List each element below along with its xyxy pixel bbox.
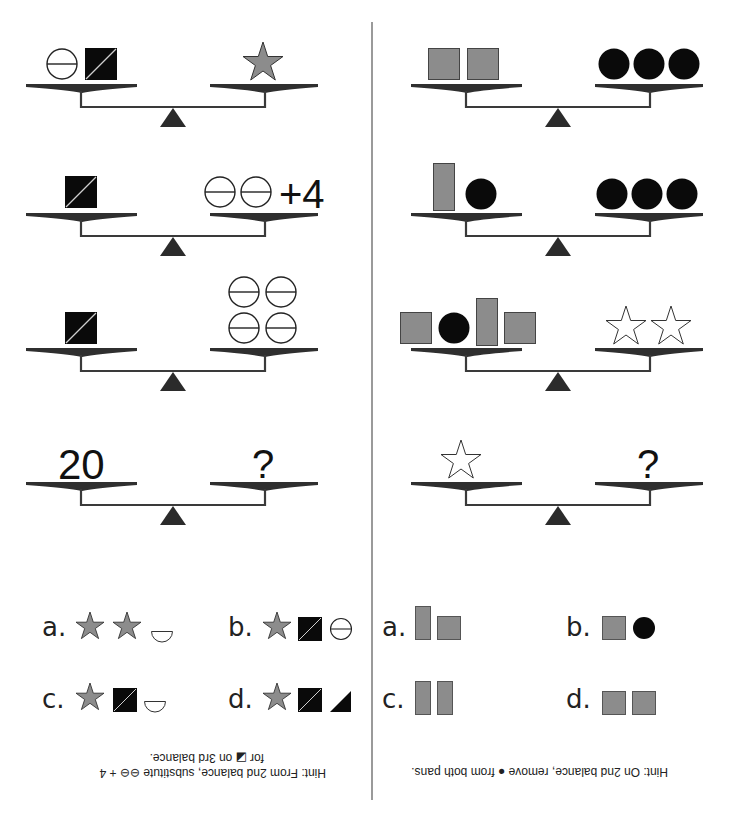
left-option-d[interactable]: d. xyxy=(228,686,253,712)
left-balance-3 xyxy=(26,277,318,391)
column-divider xyxy=(371,22,373,800)
rect-tall-gray-icon xyxy=(477,299,498,346)
left-hint-line-1: Hint: From 2nd balance, substitute ⊖⊖ + … xyxy=(78,765,326,780)
rect-tall-gray-icon xyxy=(434,164,455,211)
right-option-d[interactable]: d. xyxy=(566,686,591,712)
right-option-a-shapes xyxy=(416,607,461,640)
right-balance-4-question: ? xyxy=(637,444,659,484)
circle-line-icon xyxy=(229,313,259,343)
square-diagonal-icon xyxy=(65,312,97,344)
balance-puzzles-page: +4 20 ? ? a. b. c. d. a. b. c. d. Hint: … xyxy=(0,0,741,827)
left-option-a[interactable]: a. xyxy=(42,614,66,640)
right-option-b[interactable]: b. xyxy=(566,614,591,640)
left-balance-2 xyxy=(26,176,318,256)
circle-black-icon xyxy=(597,179,628,210)
right-option-c[interactable]: c. xyxy=(382,686,405,712)
circle-black-icon xyxy=(439,313,470,344)
right-balance-2 xyxy=(411,164,703,257)
right-balance-1 xyxy=(411,49,703,128)
left-balance-4 xyxy=(26,482,318,525)
right-option-d-shapes xyxy=(603,692,656,715)
circle-black-icon xyxy=(667,179,698,210)
circle-black-icon xyxy=(599,49,630,80)
left-balance-4-question: ? xyxy=(252,444,274,484)
circle-line-icon xyxy=(241,177,271,207)
circle-line-icon xyxy=(229,277,259,307)
left-option-d-shapes xyxy=(263,683,351,712)
right-balance-3 xyxy=(401,299,704,392)
circle-line-icon xyxy=(205,177,235,207)
circle-line-icon xyxy=(266,277,296,307)
square-gray-icon xyxy=(429,49,460,80)
left-balance-4-number: 20 xyxy=(58,444,105,486)
square-diagonal-icon xyxy=(85,48,117,80)
square-gray-icon xyxy=(468,49,499,80)
circle-black-icon xyxy=(669,49,700,80)
square-gray-icon xyxy=(401,313,432,344)
circle-black-icon xyxy=(632,179,663,210)
star-outline-icon xyxy=(606,306,646,344)
right-option-a[interactable]: a. xyxy=(382,614,406,640)
star-gray-icon xyxy=(243,42,283,80)
square-diagonal-icon xyxy=(65,176,97,208)
circle-black-icon xyxy=(634,49,665,80)
left-option-b[interactable]: b. xyxy=(228,614,253,640)
left-option-c-shapes xyxy=(76,683,166,712)
circle-black-icon xyxy=(466,179,497,210)
star-outline-icon xyxy=(441,440,481,478)
square-gray-icon xyxy=(505,313,536,344)
right-option-c-shapes xyxy=(416,682,453,715)
circle-line-icon xyxy=(47,49,77,79)
circle-line-icon xyxy=(266,313,296,343)
left-hint-line-2: for ◪ on 3rd balance. xyxy=(78,750,326,765)
left-balance-1 xyxy=(26,42,318,127)
left-hint: Hint: From 2nd balance, substitute ⊖⊖ + … xyxy=(78,750,326,780)
star-outline-icon xyxy=(651,306,691,344)
right-hint-line-1: Hint: On 2nd balance, remove ● from both… xyxy=(410,764,668,779)
left-option-b-shapes xyxy=(263,612,352,641)
left-option-c[interactable]: c. xyxy=(42,686,65,712)
left-balance-2-plus-four: +4 xyxy=(279,174,325,214)
left-option-a-shapes xyxy=(76,612,173,642)
right-option-b-shapes xyxy=(603,617,656,640)
right-hint: Hint: On 2nd balance, remove ● from both… xyxy=(410,764,668,779)
